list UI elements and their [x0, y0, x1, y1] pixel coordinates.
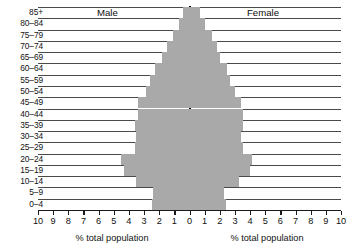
pyramid-row	[38, 131, 341, 142]
x-axis-tick-label: 6	[272, 216, 288, 226]
x-axis-tick-label: 3	[227, 216, 243, 226]
bar-female	[190, 187, 225, 198]
x-axis-tick	[190, 211, 191, 215]
x-axis-tick-label: 9	[318, 216, 334, 226]
pyramid-row	[38, 154, 341, 165]
pyramid-row	[38, 18, 341, 29]
bar-male	[162, 52, 189, 63]
x-axis-tick	[326, 211, 327, 215]
pyramid-row	[38, 30, 341, 41]
series-label-female: Female	[244, 8, 282, 18]
pyramid-row	[38, 86, 341, 97]
x-axis-tick	[280, 211, 281, 215]
bar-female	[190, 109, 243, 120]
bar-female	[190, 120, 243, 131]
bar-male	[138, 109, 190, 120]
bar-female	[190, 52, 220, 63]
pyramid-row	[38, 120, 341, 131]
x-axis-tick	[114, 211, 115, 215]
bar-female	[190, 97, 242, 108]
bar-male	[152, 199, 190, 210]
bar-female	[190, 176, 240, 187]
x-axis-tick-label: 7	[288, 216, 304, 226]
x-axis-tick	[174, 211, 175, 215]
x-axis-tick-label: 1	[197, 216, 213, 226]
x-axis-tick	[83, 211, 84, 215]
bar-female	[190, 41, 217, 52]
x-axis-tick	[129, 211, 130, 215]
x-axis-tick-label: 10	[333, 216, 349, 226]
bar-male	[121, 154, 189, 165]
x-axis-tick-label: 8	[60, 216, 76, 226]
series-label-male: Male	[94, 8, 121, 18]
x-axis-tick	[144, 211, 145, 215]
bar-male	[138, 97, 190, 108]
x-axis-tick	[53, 211, 54, 215]
bar-female	[190, 165, 251, 176]
x-axis-tick	[265, 211, 266, 215]
x-axis-tick-label: 2	[212, 216, 228, 226]
pyramid-row	[38, 63, 341, 74]
plot-area: MaleFemale	[38, 7, 341, 210]
x-axis-tick-label: 4	[242, 216, 258, 226]
pyramid-row	[38, 187, 341, 198]
pyramid-row	[38, 176, 341, 187]
pyramid-row	[38, 142, 341, 153]
x-axis-tick	[38, 211, 39, 215]
x-axis-tick-label: 4	[121, 216, 137, 226]
bar-male	[179, 18, 190, 29]
x-axis-title-left: % total population	[38, 233, 186, 244]
bar-female	[190, 86, 235, 97]
bar-male	[150, 75, 189, 86]
bar-male	[173, 30, 190, 41]
bar-male	[136, 131, 189, 142]
pyramid-row	[38, 199, 341, 210]
x-axis-tick	[235, 211, 236, 215]
x-axis-tick	[68, 211, 69, 215]
bar-male	[146, 86, 190, 97]
x-axis-tick	[99, 211, 100, 215]
pyramid-row	[38, 52, 341, 63]
x-axis-tick-label: 10	[30, 216, 46, 226]
x-axis-tick-label: 8	[303, 216, 319, 226]
bar-male	[136, 176, 189, 187]
bar-female	[190, 63, 228, 74]
bar-male	[124, 165, 189, 176]
x-axis-title-right: % total population	[193, 233, 341, 244]
x-axis-tick-label: 5	[106, 216, 122, 226]
x-axis-tick	[159, 211, 160, 215]
x-axis-tick-label: 6	[91, 216, 107, 226]
pyramid-row	[38, 75, 341, 86]
bar-male	[135, 142, 190, 153]
bar-female	[190, 75, 231, 86]
bar-female	[190, 18, 205, 29]
x-axis-tick-label: 7	[75, 216, 91, 226]
x-axis-tick-label: 1	[166, 216, 182, 226]
x-axis-tick	[311, 211, 312, 215]
bar-female	[190, 131, 242, 142]
bar-female	[190, 199, 226, 210]
pyramid-row	[38, 109, 341, 120]
bar-male	[155, 63, 190, 74]
bar-male	[167, 41, 190, 52]
x-axis-tick-label: 2	[151, 216, 167, 226]
x-axis-tick	[205, 211, 206, 215]
x-axis-tick-label: 5	[257, 216, 273, 226]
bar-female	[190, 30, 213, 41]
x-axis-tick	[250, 211, 251, 215]
pyramid-row	[38, 41, 341, 52]
x-axis-tick	[296, 211, 297, 215]
bar-female	[190, 142, 243, 153]
pyramid-row	[38, 97, 341, 108]
x-axis-tick	[341, 211, 342, 215]
pyramid-row	[38, 165, 341, 176]
x-axis-tick-label: 9	[45, 216, 61, 226]
bar-female	[190, 154, 252, 165]
pyramid-row	[38, 7, 341, 18]
x-axis-tick-label: 0	[182, 216, 198, 226]
x-axis-tick-label: 3	[136, 216, 152, 226]
bar-male	[153, 187, 189, 198]
x-axis-tick	[220, 211, 221, 215]
bar-female	[190, 7, 201, 18]
